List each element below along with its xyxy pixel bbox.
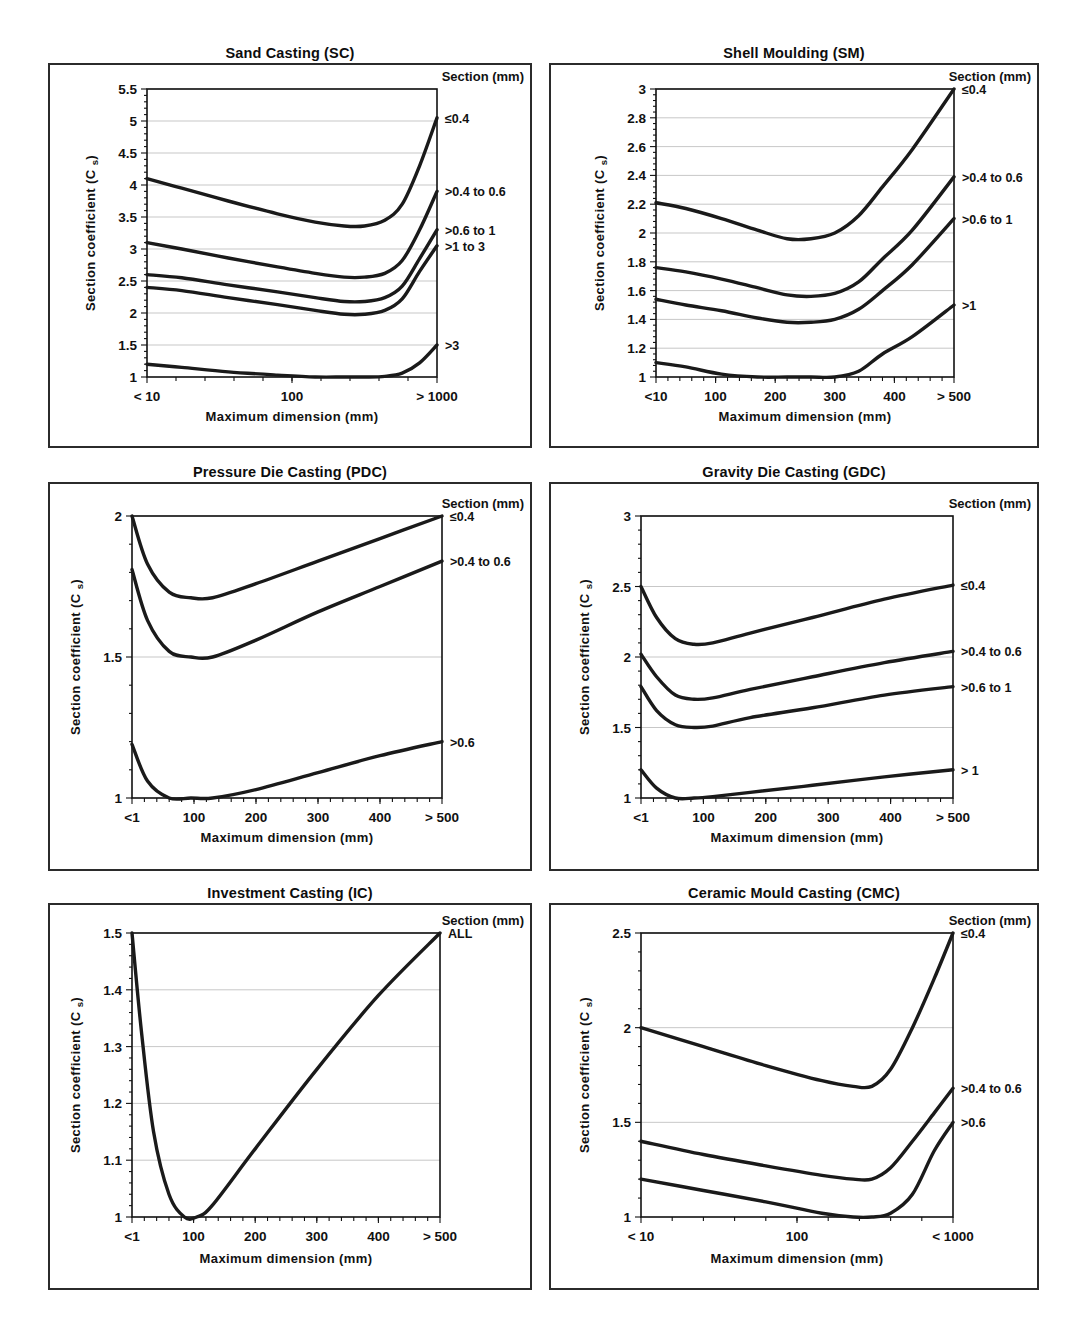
series-curve — [656, 89, 954, 240]
y-axis: 11.522.53 — [612, 509, 641, 806]
y-tick-label: 2 — [623, 1021, 631, 1036]
x-tick-label: > 500 — [425, 810, 459, 825]
y-tick-label: 2.6 — [627, 140, 646, 155]
x-tick-label: > 500 — [936, 810, 970, 825]
series-label: >0.6 to 1 — [445, 224, 495, 238]
chart-title-pressure-die-casting: Pressure Die Casting (PDC) — [48, 463, 532, 482]
chart-block-gravity-die-casting: Gravity Die Casting (GDC)11.522.53<11002… — [549, 463, 1039, 871]
y-tick-label: 2.5 — [612, 580, 631, 595]
y-tick-label: 2.5 — [612, 926, 631, 941]
x-tick-label: > 500 — [423, 1229, 457, 1244]
series-curve — [147, 191, 437, 277]
y-tick-label: 2 — [129, 306, 137, 321]
y-axis: 11.522.533.544.555.5 — [118, 82, 147, 385]
x-tick-label: 300 — [306, 1229, 329, 1244]
legend-header: Section (mm) — [949, 913, 1031, 928]
x-axis-title: Maximum dimension (mm) — [719, 409, 892, 424]
y-axis-title: Section coefficient (C s) — [68, 579, 85, 735]
series-label: >0.4 to 0.6 — [445, 185, 506, 199]
chart-frame-shell-moulding: 11.21.41.61.822.22.42.62.83<101002003004… — [549, 63, 1039, 448]
x-axis-title: Maximum dimension (mm) — [201, 830, 374, 845]
y-tick-label: 3 — [638, 82, 646, 97]
gridlines — [132, 516, 442, 657]
series-label: ≤0.4 — [445, 112, 469, 126]
chart-svg-ceramic-mould-casting: 11.522.5< 10100< 1000Section coefficient… — [551, 905, 1037, 1288]
x-axis: < 10100< 1000 — [628, 1217, 974, 1244]
x-axis: <10100200300400> 500 — [645, 377, 972, 404]
x-tick-label: 100 — [786, 1229, 809, 1244]
x-tick-label: 100 — [182, 1229, 205, 1244]
y-tick-label: 1.5 — [103, 650, 122, 665]
series-curve — [641, 585, 953, 645]
series-group — [641, 933, 953, 1217]
series-curve — [147, 345, 437, 377]
x-axis: <1100200300400> 500 — [633, 798, 970, 825]
y-tick-label: 3 — [623, 509, 631, 524]
chart-title-gravity-die-casting: Gravity Die Casting (GDC) — [549, 463, 1039, 482]
chart-block-sand-casting: Sand Casting (SC)11.522.533.544.555.5< 1… — [48, 44, 532, 448]
chart-svg-pressure-die-casting: 11.52<1100200300400> 500Section coeffici… — [50, 484, 530, 869]
y-tick-label: 2 — [623, 650, 631, 665]
series-curve — [641, 1088, 953, 1180]
series-curve — [132, 933, 440, 1219]
series-curve — [641, 770, 953, 799]
chart-title-shell-moulding: Shell Moulding (SM) — [549, 44, 1039, 63]
y-tick-label: 1.2 — [627, 341, 646, 356]
plot-border — [132, 933, 440, 1217]
y-tick-label: 2.5 — [118, 274, 137, 289]
x-tick-label: 100 — [183, 810, 206, 825]
legend-header: Section (mm) — [949, 496, 1031, 511]
y-tick-label: 1.6 — [627, 284, 646, 299]
y-tick-label: 1 — [129, 370, 137, 385]
x-tick-label: 100 — [704, 389, 727, 404]
chart-block-shell-moulding: Shell Moulding (SM)11.21.41.61.822.22.42… — [549, 44, 1039, 448]
y-tick-label: 1 — [114, 791, 122, 806]
series-label: >1 — [962, 299, 976, 313]
x-tick-label: 400 — [883, 389, 906, 404]
x-axis: <1100200300400> 500 — [124, 1217, 457, 1244]
x-tick-label: < 10 — [628, 1229, 655, 1244]
y-axis-title: Section coefficient (C s) — [592, 155, 609, 311]
y-tick-label: 1.8 — [627, 255, 646, 270]
y-tick-label: 1.5 — [612, 1115, 631, 1130]
y-axis-title: Section coefficient (C s) — [577, 997, 594, 1153]
y-axis: 11.21.41.61.822.22.42.62.83 — [627, 82, 656, 385]
y-tick-label: 1.5 — [103, 926, 122, 941]
y-tick-label: 2 — [114, 509, 122, 524]
series-label: >0.6 — [961, 1116, 986, 1130]
legend-header: Section (mm) — [442, 496, 524, 511]
x-tick-label: 300 — [817, 810, 840, 825]
x-tick-label: 200 — [755, 810, 778, 825]
x-tick-label: 100 — [692, 810, 715, 825]
x-axis: < 10100> 1000 — [134, 377, 458, 404]
y-tick-label: 1.3 — [103, 1040, 122, 1055]
x-tick-label: 200 — [245, 810, 268, 825]
y-tick-label: 1.1 — [103, 1153, 122, 1168]
y-tick-label: 1.2 — [103, 1096, 122, 1111]
series-label: ≤0.4 — [961, 579, 985, 593]
y-tick-label: 2 — [638, 226, 646, 241]
y-tick-label: 1 — [623, 1210, 631, 1225]
y-tick-label: 3.5 — [118, 210, 137, 225]
series-group — [147, 118, 437, 377]
charts-page: Sand Casting (SC)11.522.533.544.555.5< 1… — [0, 0, 1070, 1320]
x-axis: <1100200300400> 500 — [124, 798, 459, 825]
y-tick-label: 1 — [114, 1210, 122, 1225]
y-axis: 11.52 — [103, 509, 132, 806]
series-label: >0.6 — [450, 736, 475, 750]
series-label: >1 to 3 — [445, 240, 485, 254]
series-label: >0.6 to 1 — [961, 681, 1011, 695]
x-tick-label: 400 — [367, 1229, 390, 1244]
running-head — [690, 0, 1060, 12]
y-tick-label: 1 — [623, 791, 631, 806]
chart-title-sand-casting: Sand Casting (SC) — [48, 44, 532, 63]
series-label: ≤0.4 — [961, 927, 985, 941]
legend-header: Section (mm) — [442, 69, 524, 84]
series-label: ≤0.4 — [450, 510, 474, 524]
series-label: ALL — [448, 927, 473, 941]
y-tick-label: 1.5 — [118, 338, 137, 353]
x-tick-label: > 500 — [937, 389, 971, 404]
gridlines — [132, 933, 440, 1160]
series-label: >0.4 to 0.6 — [450, 555, 511, 569]
series-label: >3 — [445, 339, 459, 353]
